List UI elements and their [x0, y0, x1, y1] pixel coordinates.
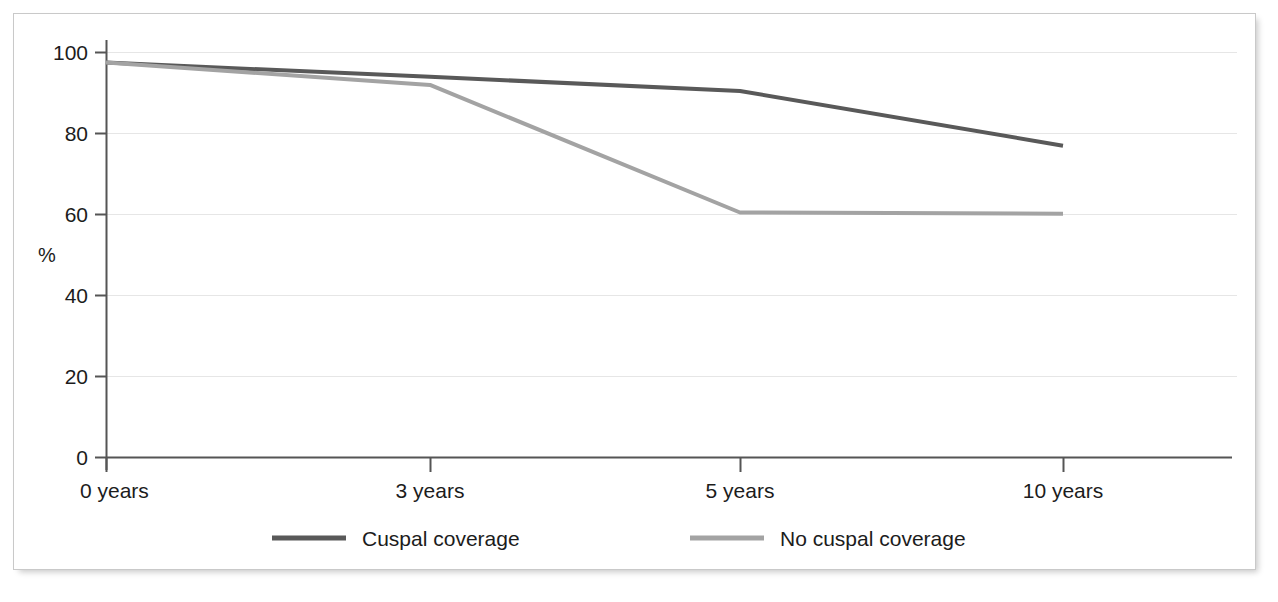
x-tick-label-10years: 10 years: [1023, 479, 1104, 502]
x-axis-ticks: [107, 457, 1064, 472]
y-tick-label-80: 80: [65, 122, 88, 145]
line-chart: 100 80 60 40 20 0 % 0 years 3 years 5 ye…: [0, 0, 1278, 602]
x-tick-label-5years: 5 years: [706, 479, 775, 502]
legend-label-no-cuspal-coverage: No cuspal coverage: [780, 527, 966, 550]
figure-container: 100 80 60 40 20 0 % 0 years 3 years 5 ye…: [0, 0, 1278, 602]
chart-legend: Cuspal coverage No cuspal coverage: [272, 527, 966, 550]
x-tick-label-0years: 0 years: [80, 479, 149, 502]
y-tick-label-60: 60: [65, 203, 88, 226]
y-tick-label-40: 40: [65, 284, 88, 307]
legend-label-cuspal-coverage: Cuspal coverage: [362, 527, 520, 550]
chart-svg: 100 80 60 40 20 0 % 0 years 3 years 5 ye…: [0, 0, 1278, 602]
y-axis-ticks: [95, 53, 107, 458]
y-axis-title: %: [38, 244, 56, 266]
x-tick-label-3years: 3 years: [396, 479, 465, 502]
y-tick-label-100: 100: [53, 41, 88, 64]
gridlines: [106, 53, 1237, 377]
y-tick-label-20: 20: [65, 365, 88, 388]
y-tick-label-0: 0: [76, 446, 88, 469]
